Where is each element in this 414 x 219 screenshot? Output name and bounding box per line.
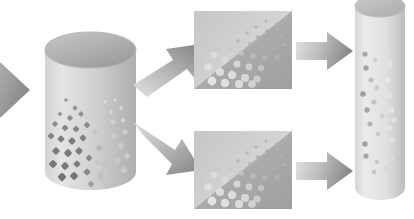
panel-particle [268,37,272,41]
upper-separation-panel [194,11,292,89]
panel-particle [211,172,217,178]
product-particle [371,99,376,104]
product-particle [362,51,367,56]
product-particle [386,93,392,99]
lower-branch-arrow-shape [133,122,201,175]
panel-particle [260,165,264,169]
panel-particle [235,80,243,88]
product-particle [364,107,369,112]
panel-particle [248,80,256,88]
panel-particle [245,151,249,155]
product-particle [372,170,377,175]
panel-particle [275,175,280,180]
upper-transfer-arrow [296,30,354,72]
product-particle [363,65,368,70]
product-particle [360,91,366,97]
panel-particle [260,45,264,49]
product-particle [389,137,395,143]
panel-particle [246,184,253,191]
product-particle [376,132,381,137]
product-particle [384,166,389,171]
panel-particle [236,159,240,163]
panel-particle [245,31,249,35]
panel-particle [254,145,257,148]
product-particle [373,58,377,62]
panel-particle [238,50,243,55]
panel-particle [235,200,243,208]
product-particle [375,160,379,164]
panel-particle [236,39,240,43]
panel-particle [282,43,286,47]
product-particle [388,107,394,113]
product-particle [363,153,368,158]
panel-particle [262,175,267,180]
panel-particle [254,25,257,28]
panel-particle [246,64,253,71]
lower-separation-panel [194,131,292,209]
panel-particle [234,181,241,188]
panel-particle [238,170,243,175]
panel-particle [208,77,217,86]
product-particle [386,125,392,131]
panel-particle [265,149,268,152]
panel-particle [250,53,255,58]
panel-particle [282,163,286,167]
lower-transfer-arrow-shape [296,152,353,190]
product-particle [385,77,391,83]
panel-particle [256,35,260,39]
panel-particle [265,140,268,143]
product-particle [375,86,380,91]
panel-particle [204,63,212,71]
product-particle [388,155,393,160]
product-particle [391,117,397,123]
panel-particle [272,46,276,50]
figure-canvas [0,0,414,219]
panel-particle [216,188,224,196]
panel-particle [234,61,241,68]
panel-particle [204,183,212,191]
panel-particle [248,162,252,166]
product-particle [384,47,390,53]
panel-particle [228,47,233,52]
panel-particle [276,27,279,30]
panel-particle [276,147,279,150]
panel-particle [275,55,280,60]
panel-particle [272,166,276,170]
panel-particle [265,29,268,32]
panel-particle [228,167,233,172]
panel-particle [256,155,260,159]
panel-particle [262,55,267,60]
panel-particle [265,20,268,23]
panel-particle [258,185,264,191]
panel-particle [222,177,229,184]
product-particle [368,122,373,127]
panel-particle [258,65,264,71]
panel-particle [279,155,283,159]
panel-particle [275,23,278,26]
panel-particle [250,173,255,178]
panel-particle [241,74,249,82]
panel-particle [241,194,249,202]
panel-particle [221,199,230,208]
panel-particle [228,191,236,199]
panel-particle [211,52,217,58]
lower-transfer-arrow [296,150,354,192]
product-particle [362,141,367,146]
product-particle [369,78,374,83]
panel-particle [221,79,230,88]
panel-particle [248,42,252,46]
upper-transfer-arrow-shape [296,32,353,70]
upper-branch-arrow-shape [133,44,201,97]
feed-cylinder [43,28,138,194]
panel-particle [222,57,229,64]
product-particle [385,147,391,153]
inlet-feed-arrow [0,60,32,136]
panel-particle [216,68,224,76]
product-particle [387,61,393,67]
panel-particle [279,35,283,39]
panel-particle [208,197,217,206]
panel-particle [248,200,256,208]
inlet-arrow-shape [0,62,30,118]
panel-particle [275,143,278,146]
product-column-body [355,6,405,200]
